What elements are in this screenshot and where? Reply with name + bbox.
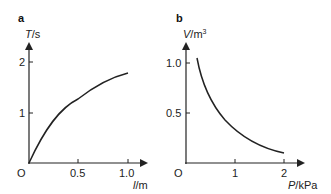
panel-label-a: a: [18, 12, 25, 24]
origin-label-b: O: [174, 167, 183, 179]
x-tick-1.0-a: 1.0: [119, 167, 134, 179]
y-tick-1.0-b: 1.0: [166, 57, 181, 69]
x-tick-0.5-a: 0.5: [70, 167, 85, 179]
x-tick-2-b: 2: [281, 167, 287, 179]
figure: a T/s 2 1 O 0.5 1.0 l/m b V/m3 1.0 0.5 O…: [0, 0, 331, 194]
y-tick-0.5-b: 0.5: [166, 107, 181, 119]
y-axis-label-b: V/m3: [183, 28, 207, 40]
x-axis-label-a: l/m: [133, 179, 148, 191]
y-tick-1-a: 1: [19, 107, 25, 119]
panel-label-b: b: [176, 12, 183, 24]
curve-b: [197, 58, 284, 153]
y-tick-2-a: 2: [19, 56, 25, 68]
chart-b: b V/m3 1.0 0.5 O 1 2 P/kPa: [166, 12, 318, 191]
origin-label-a: O: [17, 167, 26, 179]
chart-a: a T/s 2 1 O 0.5 1.0 l/m: [17, 12, 148, 191]
x-axis-label-b: P/kPa: [288, 179, 318, 191]
curve-a: [29, 73, 128, 163]
x-tick-1-b: 1: [232, 167, 238, 179]
y-axis-label-a: T/s: [25, 28, 41, 40]
